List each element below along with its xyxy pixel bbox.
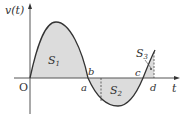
- label-a: a: [81, 82, 87, 93]
- x-axis-arrow-icon: [174, 76, 180, 80]
- region-s3-label: S3: [136, 47, 149, 61]
- label-c: c: [135, 67, 141, 78]
- x-axis-label: t: [172, 82, 177, 95]
- y-axis-arrow-icon: [28, 3, 32, 9]
- label-b: b: [88, 66, 94, 77]
- velocity-time-diagram: v(t) t O a b c d S1 S2 S3: [0, 0, 182, 117]
- s3-dot: [150, 68, 152, 70]
- y-axis-label: v(t): [5, 4, 24, 17]
- origin-label: O: [19, 81, 28, 94]
- label-d: d: [150, 82, 156, 93]
